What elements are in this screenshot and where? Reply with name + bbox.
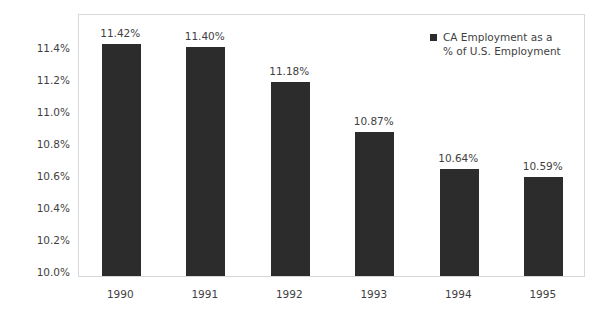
y-tick-label: 10.2% [8, 234, 70, 246]
bar-1992 [271, 82, 310, 276]
y-tick-label: 11.2% [8, 74, 70, 86]
x-tick-label-1995: 1995 [529, 288, 556, 300]
bar-value-label: 10.64% [438, 152, 478, 164]
x-tick-label-1991: 1991 [191, 288, 218, 300]
bar-chart: 11.4%11.2%11.0%10.8%10.6%10.4%10.2%10.0%… [0, 0, 614, 321]
y-tick-label: 11.4% [8, 42, 70, 54]
bar-1990 [102, 44, 141, 276]
bar-value-label: 11.18% [269, 65, 309, 77]
bar-1993 [355, 132, 394, 276]
legend-swatch-icon [430, 34, 437, 41]
bar-value-label: 10.87% [354, 115, 394, 127]
x-tick-label-1992: 1992 [276, 288, 303, 300]
bar-1994 [440, 169, 479, 276]
x-tick-label-1994: 1994 [445, 288, 472, 300]
y-tick-label: 11.0% [8, 106, 70, 118]
x-tick-label-1993: 1993 [360, 288, 387, 300]
y-tick-label: 10.0% [8, 266, 70, 278]
bar-value-label: 10.59% [523, 160, 563, 172]
y-tick-label: 10.4% [8, 202, 70, 214]
bar-value-label: 11.40% [185, 30, 225, 42]
bar-1991 [186, 47, 225, 276]
legend-label: CA Employment as a % of U.S. Employment [443, 30, 561, 58]
y-tick-label: 10.8% [8, 138, 70, 150]
bar-value-label: 11.42% [100, 27, 140, 39]
x-tick-label-1990: 1990 [107, 288, 134, 300]
chart-legend: CA Employment as a % of U.S. Employment [430, 30, 561, 58]
y-tick-label: 10.6% [8, 170, 70, 182]
bar-1995 [524, 177, 563, 276]
